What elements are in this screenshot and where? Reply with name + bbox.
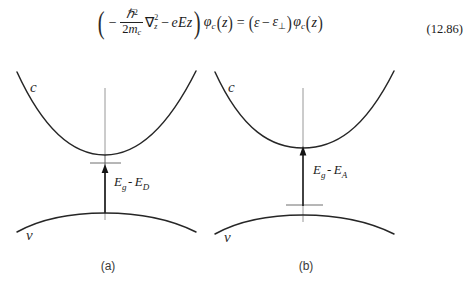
- equation-block: ( − ℏ2 2mc ∇2z − eEz ) φc ( z ) = ( ε − …: [0, 4, 472, 52]
- panel-b-gap-label-sub-A: A: [341, 170, 348, 180]
- panel-a-gap-label: Eg-ED: [113, 174, 150, 192]
- phi-arg-open-rhs: (: [306, 15, 311, 30]
- equation-open-paren: (: [98, 11, 105, 35]
- nabla-operator: ∇2z: [145, 16, 154, 30]
- effective-mass-m: m: [128, 22, 137, 36]
- phi-arg-close-lhs: ): [228, 15, 233, 30]
- figure-page: ( − ℏ2 2mc ∇2z − eEz ) φc ( z ) = ( ε − …: [0, 0, 472, 282]
- epsilon-perp: ε⊥: [272, 15, 286, 31]
- rhs-open-paren: (: [248, 15, 253, 30]
- nabla-symbol: ∇: [145, 15, 154, 30]
- perp-subscript: ⊥: [278, 21, 286, 31]
- panel-a-valence-band-curve: [17, 213, 196, 232]
- panel-b-conduction-band-curve: [215, 71, 394, 148]
- nabla-subscript-z: z: [154, 23, 157, 31]
- energy-epsilon: ε: [254, 16, 260, 30]
- panel-b-valence-band-curve: [215, 215, 394, 234]
- panel-b: c Eg-EA v (b): [215, 71, 394, 273]
- hbar-exponent: 2: [134, 8, 138, 17]
- wavefunction-phi-lhs: φc: [204, 15, 216, 31]
- panel-b-valence-band-label: v: [224, 229, 231, 245]
- panel-b-caption: (b): [299, 259, 314, 273]
- equation-number: (12.86): [427, 22, 463, 37]
- phi-arg-open-lhs: (: [216, 15, 221, 30]
- equals-sign: =: [237, 16, 245, 30]
- equation-second-minus: −: [161, 16, 169, 30]
- panel-a-gap-label-sub-g: g: [122, 182, 127, 192]
- panel-b-conduction-band-label: c: [228, 79, 235, 95]
- phi-subscript-c-lhs: c: [212, 21, 216, 31]
- panel-a-conduction-band-label: c: [30, 79, 37, 95]
- rhs-minus: −: [262, 16, 270, 30]
- effective-mass-subscript-c: c: [138, 28, 142, 37]
- phi-arg-z-rhs: z: [311, 16, 316, 30]
- panel-a-gap-label-dash: -: [128, 174, 132, 189]
- equation-close-paren: ): [194, 11, 201, 35]
- panel-b-gap-label: Eg-EA: [312, 162, 348, 180]
- panel-b-gap-label-dash: -: [327, 162, 331, 177]
- phi-arg-close-rhs: ): [318, 15, 323, 30]
- potential-term-eEz: eEz: [172, 16, 193, 30]
- panel-a-transition-arrow-head: [102, 164, 109, 173]
- fraction-denominator: 2mc: [120, 22, 143, 38]
- phi-subscript-c-rhs: c: [301, 21, 305, 31]
- phi-symbol-lhs: φ: [204, 14, 212, 29]
- hbar-symbol: ℏ: [126, 7, 134, 21]
- panel-a-gap-label-E1: E: [113, 174, 122, 189]
- wavefunction-phi-rhs: φc: [293, 15, 305, 31]
- panel-b-gap-label-sub-g: g: [321, 170, 326, 180]
- fraction-numerator: ℏ2: [124, 8, 140, 22]
- panel-a-conduction-band-curve: [17, 71, 196, 155]
- rhs-close-paren: ): [287, 15, 292, 30]
- panel-a: c Eg-ED v (a): [17, 71, 196, 273]
- panel-a-gap-label-E2: E: [134, 174, 143, 189]
- panel-a-caption: (a): [101, 259, 116, 273]
- phi-symbol-rhs: φ: [293, 14, 301, 29]
- equation-leading-minus: −: [109, 16, 117, 30]
- equation-12-86: ( − ℏ2 2mc ∇2z − eEz ) φc ( z ) = ( ε − …: [96, 8, 323, 38]
- panel-b-gap-label-E2: E: [333, 162, 342, 177]
- panel-b-gap-label-E1: E: [312, 162, 321, 177]
- hbar-squared-over-two-mc-fraction: ℏ2 2mc: [120, 8, 143, 38]
- phi-arg-z-lhs: z: [222, 16, 227, 30]
- panel-a-valence-band-label: v: [26, 227, 33, 243]
- panel-a-gap-label-sub-D: D: [142, 182, 150, 192]
- band-diagram-figure: c Eg-ED v (a): [0, 52, 472, 282]
- nabla-superscript-2: 2: [154, 14, 158, 22]
